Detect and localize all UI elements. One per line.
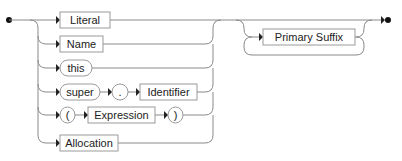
primary-suffix-loop: Primary Suffix [236, 20, 372, 55]
arrow-icon [56, 111, 60, 119]
super-label: super [66, 86, 94, 98]
branch-this: this [56, 60, 92, 76]
arrow-icon [56, 139, 60, 147]
arrow-icon [56, 88, 60, 96]
name-label: Name [67, 38, 96, 50]
arrow-icon [56, 40, 60, 48]
arrow-icon [259, 33, 263, 41]
arrow-icon [164, 111, 168, 119]
branch-literal: Literal [56, 12, 110, 28]
branch-allocation: Allocation [56, 135, 118, 151]
railroad-diagram: Literal Name this super . Identifier ( E… [0, 0, 402, 161]
lparen-label: ( [66, 109, 70, 121]
arrow-icon [84, 111, 88, 119]
arrow-icon [108, 88, 112, 96]
branch-parenthesized: ( Expression ) [56, 107, 183, 123]
branch-super: super . Identifier [56, 84, 197, 100]
arrow-icon [136, 88, 140, 96]
literal-label: Literal [70, 14, 100, 26]
dot-label: . [118, 86, 121, 98]
this-label: this [67, 62, 85, 74]
rparen-label: ) [174, 109, 178, 121]
expression-label: Expression [94, 109, 148, 121]
identifier-label: Identifier [147, 86, 190, 98]
primary-suffix-label: Primary Suffix [275, 31, 344, 43]
end-marker-icon [385, 17, 391, 23]
end-arrow-icon [381, 16, 385, 24]
arrow-icon [56, 64, 60, 72]
allocation-label: Allocation [65, 137, 113, 149]
arrow-icon [56, 16, 60, 24]
branch-name: Name [56, 36, 103, 52]
